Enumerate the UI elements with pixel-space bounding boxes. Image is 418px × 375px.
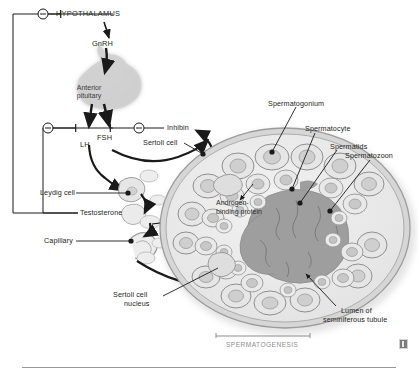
sertoli-cell-nucleus-label-line2: nucleus (124, 300, 149, 308)
sertoli-cell-label: Sertoli cell (143, 139, 177, 147)
gnrh-arrow (104, 22, 109, 38)
testosterone-label: Testosterone (80, 209, 122, 217)
spermatogonium-label: Spermatogonium (268, 100, 324, 108)
spermatozoon-label: Spermatozoon (345, 152, 393, 160)
androgen-binding-protein-label-line2: binding protein (216, 208, 272, 216)
feedback-minus-hypothalamus (38, 9, 48, 19)
feedback-minus-inhibin (134, 123, 144, 133)
feedback-minus-pituitary (43, 123, 53, 133)
androgen-binding-protein-label-line1: Androgen- (216, 199, 272, 207)
leydig-cell-label: Leydig cell (40, 189, 75, 197)
anterior-pituitary-label-line1: Anterior (66, 84, 112, 92)
footer-divider (22, 367, 396, 368)
lumen-label-line2: seminiferous tubule (323, 316, 387, 324)
fsh-label: FSH (97, 134, 112, 142)
figure-canvas: HYPOTHALAMUS GnRH Anterior pituitary LH … (0, 0, 418, 375)
inhibin-label: Inhibin (167, 124, 189, 132)
page-corner-mark-icon (399, 339, 408, 349)
hypothalamus-label: HYPOTHALAMUS (56, 10, 120, 18)
spermatocyte-label: Spermatocyte (305, 125, 351, 133)
anterior-pituitary-label-line2: pituitary (66, 92, 112, 100)
gnrh-label: GnRH (92, 40, 113, 48)
capillary-label: Capillary (44, 237, 73, 245)
lh-arrow (89, 104, 92, 126)
lh-label: LH (80, 141, 90, 149)
spermatogenesis-bracket-label: SPERMATOGENESIS (226, 341, 298, 349)
sertoli-cell-nucleus-shape (208, 252, 236, 276)
